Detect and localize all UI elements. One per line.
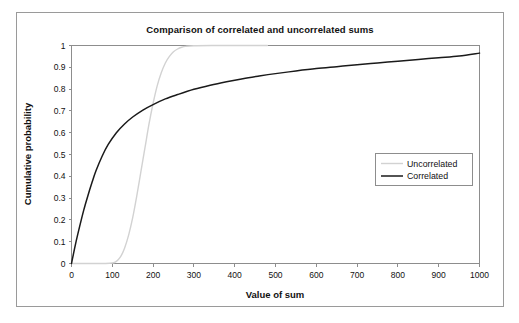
x-tick-label: 400 xyxy=(228,270,242,280)
x-tick-label: 0 xyxy=(69,270,74,280)
x-tick-label: 800 xyxy=(391,270,405,280)
series-line-uncorrelated xyxy=(72,45,268,263)
y-tick-label: 0.8 xyxy=(54,84,66,94)
chart-plot-area: 00.10.20.30.40.50.60.70.80.91 0100200300… xyxy=(17,13,503,306)
y-tick-label: 0.6 xyxy=(54,128,66,138)
y-tick-label: 0.7 xyxy=(54,106,66,116)
x-axis-title: Value of sum xyxy=(246,289,305,300)
legend-label-uncorrelated: Uncorrelated xyxy=(407,159,457,169)
x-tick-label: 300 xyxy=(187,270,201,280)
y-tick-label: 1 xyxy=(61,41,66,51)
x-tick-label: 900 xyxy=(432,270,446,280)
chart-legend[interactable]: Uncorrelated Correlated xyxy=(376,154,473,186)
y-tick-label: 0 xyxy=(61,259,66,269)
x-tick-label: 200 xyxy=(146,270,160,280)
y-tick-label: 0.5 xyxy=(54,150,66,160)
chart-figure-frame: Comparison of correlated and uncorrelate… xyxy=(16,12,504,307)
x-tick-group: 01002003004005006007008009001000 xyxy=(69,264,489,280)
y-tick-label: 0.9 xyxy=(54,62,66,72)
legend-label-correlated: Correlated xyxy=(407,171,448,181)
x-tick-label: 100 xyxy=(105,270,119,280)
y-tick-label: 0.3 xyxy=(54,193,66,203)
y-axis-title: Cumulative probability xyxy=(22,102,33,205)
y-tick-label: 0.2 xyxy=(54,215,66,225)
y-tick-group: 00.10.20.30.40.50.60.70.80.91 xyxy=(54,41,72,269)
x-tick-label: 1000 xyxy=(470,270,489,280)
x-tick-label: 700 xyxy=(350,270,364,280)
y-tick-label: 0.1 xyxy=(54,237,66,247)
y-tick-label: 0.4 xyxy=(54,171,66,181)
x-tick-label: 600 xyxy=(309,270,323,280)
x-tick-label: 500 xyxy=(268,270,282,280)
